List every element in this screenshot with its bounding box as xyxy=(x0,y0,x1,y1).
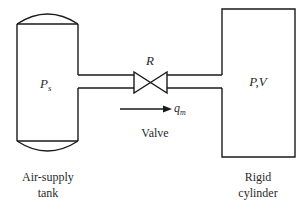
flow-arrow: qm xyxy=(120,101,186,117)
pneumatic-diagram: Ps R Valve qm P,V Air-supply tank Rigid … xyxy=(0,0,306,209)
supply-tank-caption-line1: Air-supply xyxy=(22,170,74,184)
valve-symbol xyxy=(134,72,167,93)
cylinder-caption-line2: cylinder xyxy=(238,186,277,200)
rigid-cylinder: P,V xyxy=(222,9,295,157)
pipe-inlet xyxy=(78,75,134,88)
pipe-outlet xyxy=(167,75,222,88)
valve-resistance-label: R xyxy=(145,53,154,68)
supply-tank-caption-line2: tank xyxy=(38,186,59,200)
cylinder-state-label: P,V xyxy=(248,74,269,89)
valve: R Valve xyxy=(134,53,169,140)
supply-tank-top-cap xyxy=(17,14,78,24)
mass-flow-label: qm xyxy=(174,101,186,117)
supply-tank: Ps xyxy=(17,14,78,151)
supply-pressure-label: Ps xyxy=(39,76,52,93)
supply-tank-bottom-cap xyxy=(17,141,78,151)
cylinder-caption-line1: Rigid xyxy=(245,170,272,184)
valve-caption: Valve xyxy=(141,126,168,140)
flow-arrow-head-icon xyxy=(163,106,172,113)
